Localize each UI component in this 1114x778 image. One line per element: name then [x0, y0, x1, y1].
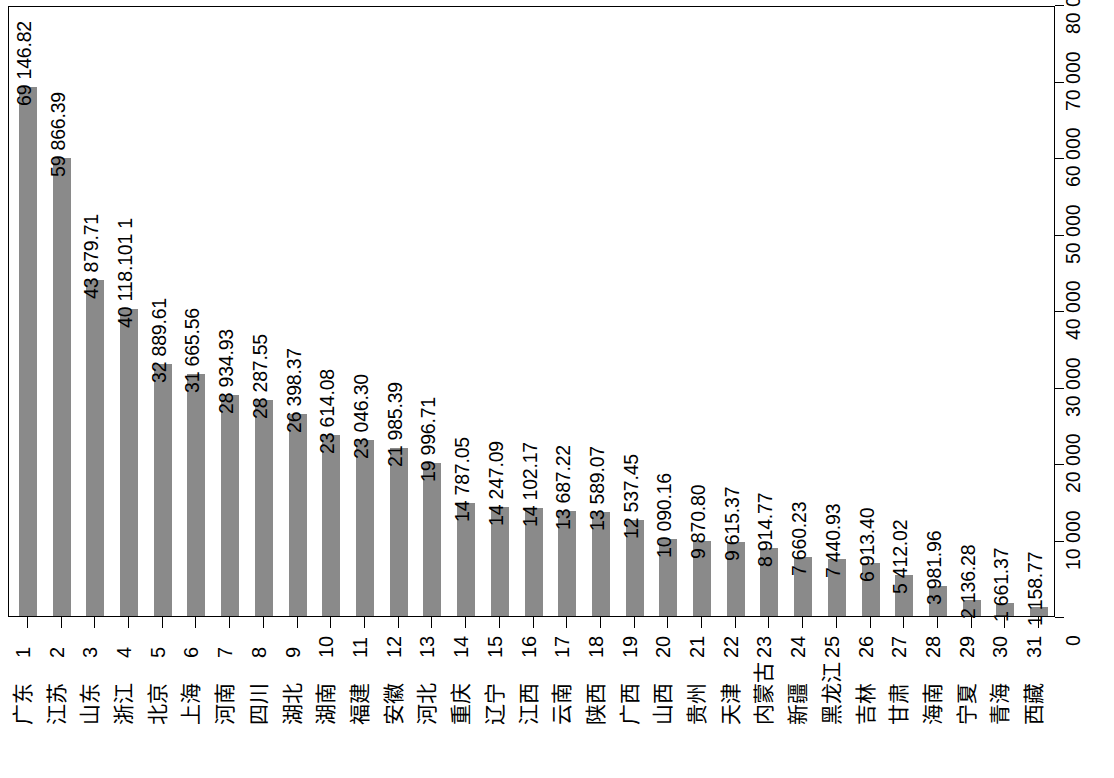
value-axis-tick-label: 30 000 [1062, 357, 1085, 417]
bar-河南 [221, 395, 239, 616]
category-rank-label: 20 [652, 636, 675, 658]
value-label: 7 440.93 [822, 504, 845, 578]
category-rank-label: 19 [619, 636, 642, 658]
value-axis-tick-label: 60 000 [1062, 127, 1085, 187]
category-name-label: 上海 [174, 683, 204, 725]
value-label: 28 934.93 [215, 329, 238, 414]
category-rank-label: 2 [46, 647, 69, 658]
category-axis-tick [297, 617, 298, 628]
category-name-label: 新疆 [781, 683, 811, 725]
value-axis-tick-label: 70 000 [1062, 51, 1085, 111]
value-axis-tick-label: 40 000 [1062, 280, 1085, 340]
category-name-label: 湖北 [276, 683, 306, 725]
category-axis-tick [836, 617, 837, 628]
value-label: 32 889.61 [148, 298, 171, 383]
category-name-label: 吉林 [849, 683, 879, 725]
category-axis-tick [27, 617, 28, 628]
category-rank-label: 16 [518, 636, 541, 658]
category-name-label: 江苏 [40, 683, 70, 725]
value-label: 19 996.71 [417, 397, 440, 482]
category-name-label: 辽宁 [478, 683, 508, 725]
category-name-label: 青海 [983, 683, 1013, 725]
category-name-label: 内蒙古 [747, 662, 777, 725]
category-name-label: 天津 [714, 683, 744, 725]
bar-广东 [19, 87, 37, 616]
category-name-label: 四川 [242, 683, 272, 725]
value-label: 2 136.28 [957, 544, 980, 618]
category-axis-tick [937, 617, 938, 628]
value-label: 23 046.30 [350, 374, 373, 459]
bar-四川 [255, 400, 273, 616]
category-rank-label: 25 [821, 636, 844, 658]
category-axis-tick [768, 617, 769, 628]
category-axis-tick [499, 617, 500, 628]
category-rank-label: 31 [1023, 636, 1046, 658]
category-rank-label: 1 [12, 647, 35, 658]
value-axis-tick-label: 80 000 [1062, 0, 1085, 34]
category-axis-tick [903, 617, 904, 628]
category-rank-label: 22 [720, 636, 743, 658]
category-rank-label: 4 [113, 647, 136, 658]
category-rank-label: 17 [551, 636, 574, 658]
category-axis-tick [701, 617, 702, 628]
category-rank-label: 27 [888, 636, 911, 658]
category-name-label: 河南 [208, 683, 238, 725]
category-rank-label: 6 [180, 647, 203, 658]
chart-canvas: 69 146.8259 866.3943 879.7140 118.101 13… [0, 0, 1114, 778]
category-name-label: 黑龙江 [815, 662, 845, 725]
value-label: 1 158.77 [1024, 552, 1047, 626]
category-rank-label: 21 [686, 636, 709, 658]
bar-安徽 [390, 448, 408, 616]
category-rank-label: 11 [349, 637, 372, 658]
category-rank-label: 3 [79, 647, 102, 658]
value-label: 8 914.77 [754, 492, 777, 566]
category-name-label: 广西 [613, 683, 643, 725]
category-axis-tick [195, 617, 196, 628]
category-axis-tick [398, 617, 399, 628]
value-label: 5 412.02 [889, 519, 912, 593]
value-label: 26 398.37 [283, 348, 306, 433]
category-rank-label: 24 [787, 636, 810, 658]
category-axis-tick [1038, 617, 1039, 628]
category-axis-tick [431, 617, 432, 628]
bar-江苏 [53, 158, 71, 616]
value-label: 13 589.07 [586, 446, 609, 531]
category-axis-tick [61, 617, 62, 628]
category-axis-tick [870, 617, 871, 628]
category-name-label: 西藏 [1017, 683, 1047, 725]
category-axis-tick [128, 617, 129, 628]
category-axis-tick [94, 617, 95, 628]
value-axis-tick-label: 50 000 [1062, 204, 1085, 264]
category-rank-label: 12 [383, 636, 406, 658]
category-rank-label: 28 [922, 636, 945, 658]
value-axis-tick-label: 10 000 [1062, 510, 1085, 570]
value-label: 6 913.40 [856, 508, 879, 582]
value-label: 23 614.08 [316, 369, 339, 454]
value-label: 28 287.55 [249, 334, 272, 419]
value-label: 21 985.39 [384, 382, 407, 467]
category-rank-label: 23 [753, 636, 776, 658]
value-label: 1 661.37 [990, 548, 1013, 622]
value-axis: 010 00020 00030 00040 00050 00060 00070 … [1055, 6, 1114, 617]
category-rank-label: 18 [585, 636, 608, 658]
value-axis-tick-label: 20 000 [1062, 433, 1085, 493]
category-axis-tick [600, 617, 601, 628]
category-name-label: 广东 [6, 683, 36, 725]
value-label: 43 879.71 [80, 214, 103, 299]
value-label: 40 118.101 1 [114, 218, 137, 328]
category-name-label: 山东 [73, 683, 103, 725]
category-rank-label: 30 [989, 636, 1012, 658]
bar-湖南 [322, 435, 340, 616]
category-axis-tick [330, 617, 331, 628]
value-label: 7 660.23 [788, 502, 811, 576]
category-name-label: 山西 [646, 683, 676, 725]
category-rank-label: 14 [450, 636, 473, 658]
category-name-label: 贵州 [680, 683, 710, 725]
category-name-label: 河北 [410, 683, 440, 725]
category-name-label: 宁夏 [950, 683, 980, 725]
category-rank-label: 13 [416, 636, 439, 658]
value-label: 9 615.37 [721, 487, 744, 561]
bar-湖北 [289, 414, 307, 616]
category-axis-tick [162, 617, 163, 628]
value-label: 14 787.05 [451, 437, 474, 522]
